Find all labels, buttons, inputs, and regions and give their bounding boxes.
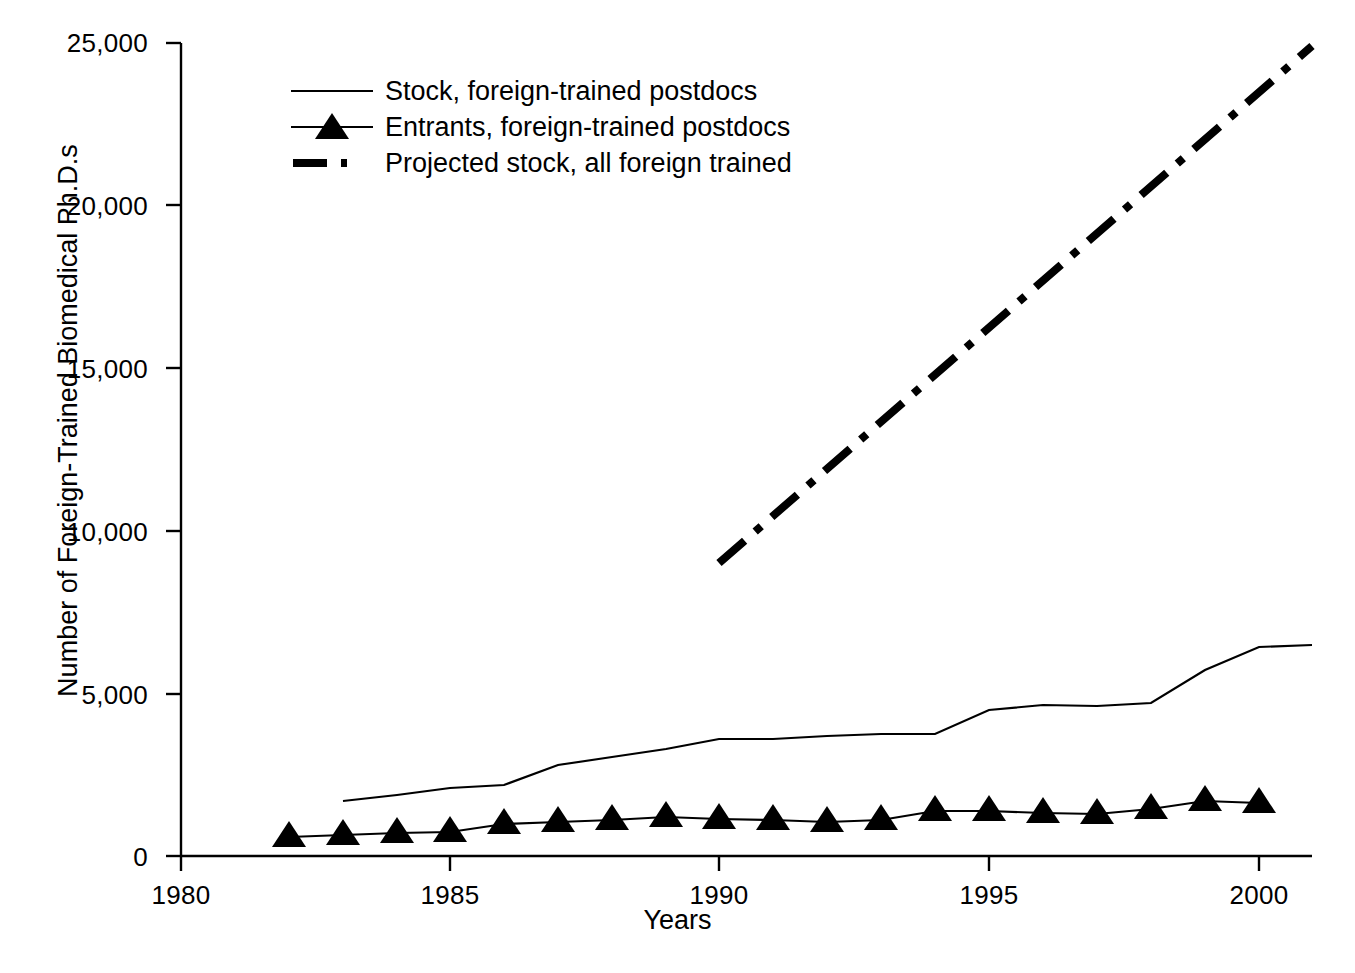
x-axis-ticks — [181, 856, 1259, 871]
dash-dot-line-icon — [289, 145, 375, 181]
chart-legend: Stock, foreign-trained postdocs Entrants… — [289, 73, 849, 181]
line-with-triangle-icon — [289, 109, 375, 145]
thin-line-icon — [289, 73, 375, 109]
x-axis-title: Years — [0, 905, 1355, 936]
legend-item-projected: Projected stock, all foreign trained — [289, 145, 849, 181]
legend-item-stock: Stock, foreign-trained postdocs — [289, 73, 849, 109]
legend-label-entrants: Entrants, foreign-trained postdocs — [375, 112, 790, 143]
series-entrants-markers — [272, 785, 1276, 847]
legend-label-projected: Projected stock, all foreign trained — [375, 148, 792, 179]
y-axis-ticks — [166, 43, 181, 856]
line-chart: 25,000 20,000 15,000 10,000 5,000 0 1980… — [0, 0, 1355, 973]
legend-item-entrants: Entrants, foreign-trained postdocs — [289, 109, 849, 145]
y-tick-label-0: 0 — [0, 842, 148, 873]
y-tick-label-25000: 25,000 — [0, 28, 148, 59]
series-stock-foreign-trained-postdocs — [343, 645, 1312, 801]
legend-label-stock: Stock, foreign-trained postdocs — [375, 76, 757, 107]
y-axis-title: Number of Foreign-Trained Biomedical Ph.… — [53, 141, 84, 701]
